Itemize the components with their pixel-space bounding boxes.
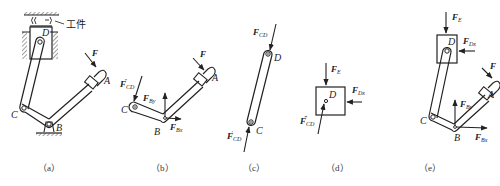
point-b-label-b: B — [154, 126, 160, 137]
force-fcd-triple-prime-label: FCD‴ — [299, 115, 315, 127]
force-fcd-label: FCD — [252, 27, 268, 38]
point-a-label-b: A — [211, 72, 219, 83]
link-cb-b — [134, 102, 163, 121]
point-c-label-b: C — [121, 104, 128, 115]
force-fdx-label-e: FDx — [462, 36, 476, 47]
force-fbx-label: FBx — [169, 122, 183, 133]
force-f-label-e: F — [489, 61, 496, 71]
lever-ba-b — [163, 81, 203, 121]
point-d-label-e: D — [447, 36, 456, 47]
panel-d: D FE FDx FCD‴ （d） — [299, 63, 365, 173]
point-b-label: B — [56, 122, 62, 133]
force-fbx-label-e: FBx — [474, 132, 488, 143]
force-fbx-arrow-e — [456, 127, 487, 128]
panel-b: A C B F FCD″ FBy FBx （b） — [119, 49, 219, 173]
point-d-label-d: D — [328, 89, 337, 100]
panel-e: D C A B F FE FDx FBy — [419, 12, 500, 173]
force-fcd-prime-label: FCD′ — [226, 130, 242, 142]
force-fe-label-d: FE — [330, 64, 341, 75]
panel-c: D C FCD FCD′ （c） — [226, 24, 282, 173]
force-fcd-prime-arrow — [244, 127, 249, 152]
mechanism-diagram: 工件 D C A F B （a） — [0, 0, 500, 186]
workpiece-label: 工件 — [66, 19, 86, 30]
right-guide-hatch — [53, 32, 58, 59]
point-a-label: A — [103, 75, 111, 86]
point-c-label-c: C — [256, 125, 263, 136]
force-fby-label-e: FBy — [459, 99, 473, 110]
caption-e: （e） — [419, 163, 441, 173]
workpiece-icon — [32, 17, 52, 24]
point-c-label: C — [11, 109, 18, 120]
force-fdx-label-d: FDx — [351, 85, 365, 96]
caption-b: （b） — [151, 163, 174, 173]
point-d-label: D — [41, 27, 50, 38]
force-f-label: F — [91, 48, 98, 58]
force-fe-label-e: FE — [451, 12, 462, 23]
left-guide-hatch — [22, 32, 27, 59]
caption-a: （a） — [38, 163, 60, 173]
caption-d: （d） — [326, 163, 349, 173]
force-f-label-b: F — [199, 49, 206, 59]
point-d-label-c: D — [273, 52, 282, 63]
lever-ba — [49, 84, 92, 126]
force-fcd-arrow — [270, 24, 276, 50]
panel-a: 工件 D C A F B （a） — [11, 12, 111, 173]
link-cd-c — [247, 53, 272, 123]
force-fcd-double-prime-arrow — [134, 76, 142, 101]
point-a-label-e: A — [487, 89, 495, 100]
point-b-label-e: B — [454, 132, 460, 143]
link-cd-e — [429, 50, 451, 118]
point-c-label-e: C — [420, 115, 427, 126]
force-fcd-double-prime-label: FCD″ — [119, 78, 135, 90]
force-fcd-triple-prime-arrow — [318, 104, 324, 134]
force-fby-label: FBy — [142, 93, 156, 104]
force-f-arrow-b — [193, 58, 204, 70]
caption-c: （c） — [243, 163, 265, 173]
